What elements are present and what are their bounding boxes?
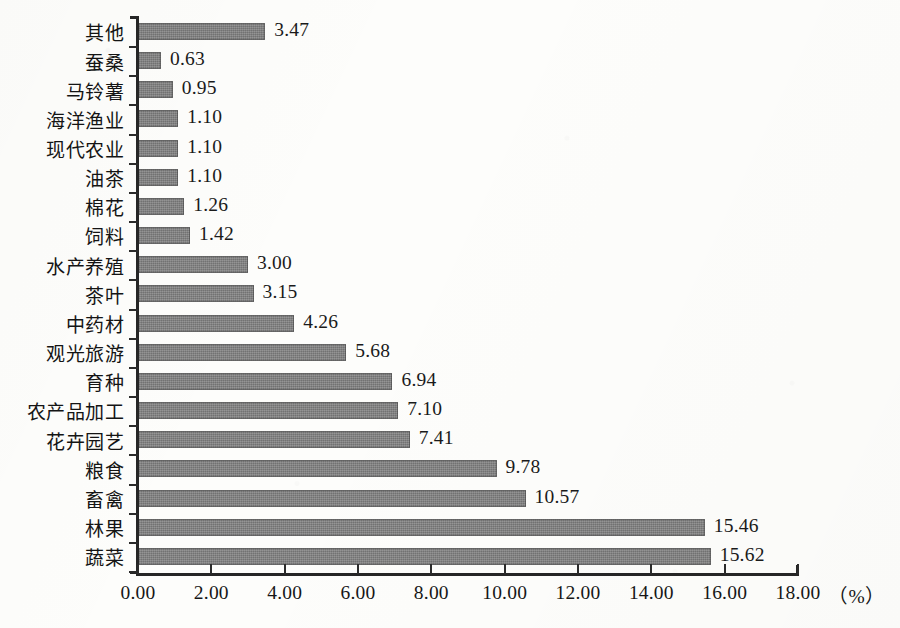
bar-value-label: 4.26 — [303, 311, 338, 333]
x-axis-unit-label: （%） — [828, 580, 886, 609]
category-label-text: 育种 — [85, 368, 130, 395]
category-label-text: 其他 — [85, 18, 130, 45]
x-axis-tick-label: 14.00 — [629, 582, 674, 604]
bar — [138, 315, 294, 332]
category-label-text: 饲料 — [85, 222, 130, 249]
y-axis-tick — [129, 75, 138, 77]
bar — [138, 519, 705, 536]
x-axis-tick — [284, 564, 286, 574]
y-axis-tick — [129, 484, 138, 486]
category-label: 粮食 — [0, 455, 130, 483]
bar-row: 3.15 — [0, 280, 900, 308]
bar-row: 7.10 — [0, 397, 900, 425]
category-label: 畜禽 — [0, 485, 130, 513]
bar-value-label: 6.94 — [401, 369, 436, 391]
bar-value-label: 1.26 — [193, 194, 228, 216]
bar — [138, 344, 346, 361]
x-axis-tick-label: 0.00 — [121, 582, 156, 604]
category-label-text: 茶叶 — [85, 281, 130, 308]
y-axis-tick — [129, 163, 138, 165]
category-label: 马铃薯 — [0, 76, 130, 104]
category-label: 蔬菜 — [0, 543, 130, 571]
bar-value-label: 1.42 — [199, 223, 234, 245]
x-axis-tick-label: 6.00 — [341, 582, 376, 604]
x-axis-tick — [210, 564, 212, 574]
category-label-text: 花卉园艺 — [46, 427, 130, 454]
x-axis-tick — [650, 564, 652, 574]
x-axis-tick-label: 8.00 — [414, 582, 449, 604]
bar — [138, 227, 190, 244]
bar-row: 1.10 — [0, 105, 900, 133]
y-axis-tick — [129, 192, 138, 194]
bar — [138, 110, 178, 127]
y-axis-tick — [129, 250, 138, 252]
bar — [138, 490, 526, 507]
y-axis-tick — [129, 454, 138, 456]
category-label: 农产品加工 — [0, 397, 130, 425]
bar-row: 6.94 — [0, 368, 900, 396]
bar-row: 1.26 — [0, 193, 900, 221]
bar — [138, 548, 711, 565]
bar — [138, 81, 173, 98]
bar-row: 4.26 — [0, 310, 900, 338]
bar — [138, 169, 178, 186]
bar-row: 1.10 — [0, 164, 900, 192]
bar — [138, 373, 392, 390]
x-axis-tick — [797, 564, 799, 574]
y-axis-tick — [129, 279, 138, 281]
x-axis-tick-label: 16.00 — [702, 582, 747, 604]
bar — [138, 198, 184, 215]
y-axis-tick — [129, 542, 138, 544]
bar-value-label: 9.78 — [506, 456, 541, 478]
bar-value-label: 7.10 — [407, 398, 442, 420]
category-label-text: 蚕桑 — [85, 48, 130, 75]
bar — [138, 256, 248, 273]
category-label: 中药材 — [0, 310, 130, 338]
category-label-text: 海洋渔业 — [46, 106, 130, 133]
category-label-text: 观光旅游 — [46, 339, 130, 366]
x-axis-tick-label: 10.00 — [482, 582, 527, 604]
bar-value-label: 15.62 — [720, 544, 765, 566]
category-label-text: 中药材 — [66, 310, 131, 337]
y-axis-tick — [129, 396, 138, 398]
x-axis-tick — [504, 564, 506, 574]
bar-value-label: 3.00 — [257, 252, 292, 274]
bar-row: 9.78 — [0, 455, 900, 483]
category-label: 花卉园艺 — [0, 426, 130, 454]
category-label-text: 林果 — [85, 514, 130, 541]
y-axis-tick — [129, 104, 138, 106]
bar-value-label: 1.10 — [187, 165, 222, 187]
bar-value-label: 0.63 — [170, 48, 205, 70]
bar-row: 1.42 — [0, 222, 900, 250]
bar-row: 3.00 — [0, 251, 900, 279]
y-axis-tick — [129, 134, 138, 136]
category-label: 饲料 — [0, 222, 130, 250]
x-axis-tick — [430, 564, 432, 574]
category-label: 油茶 — [0, 164, 130, 192]
bar-row: 1.10 — [0, 135, 900, 163]
x-axis-line — [136, 573, 799, 576]
x-axis-tick-label: 18.00 — [776, 582, 821, 604]
x-axis-tick-label: 12.00 — [556, 582, 601, 604]
category-label: 棉花 — [0, 193, 130, 221]
y-axis-tick — [129, 46, 138, 48]
bar — [138, 402, 398, 419]
x-axis-tick-label: 2.00 — [194, 582, 229, 604]
y-axis-tick — [129, 367, 138, 369]
category-label-text: 畜禽 — [85, 485, 130, 512]
bar — [138, 431, 410, 448]
y-axis-tick — [129, 425, 138, 427]
category-label-text: 棉花 — [85, 193, 130, 220]
category-label: 海洋渔业 — [0, 105, 130, 133]
category-label-text: 农产品加工 — [27, 397, 131, 424]
category-label: 现代农业 — [0, 135, 130, 163]
y-axis-top-cap — [130, 16, 139, 19]
bar — [138, 140, 178, 157]
bar-value-label: 5.68 — [355, 340, 390, 362]
bar-value-label: 1.10 — [187, 136, 222, 158]
category-label-text: 马铃薯 — [66, 77, 131, 104]
x-axis-tick — [137, 564, 139, 574]
y-axis-tick — [129, 513, 138, 515]
category-label-text: 水产养殖 — [46, 252, 130, 279]
category-label: 蚕桑 — [0, 47, 130, 75]
